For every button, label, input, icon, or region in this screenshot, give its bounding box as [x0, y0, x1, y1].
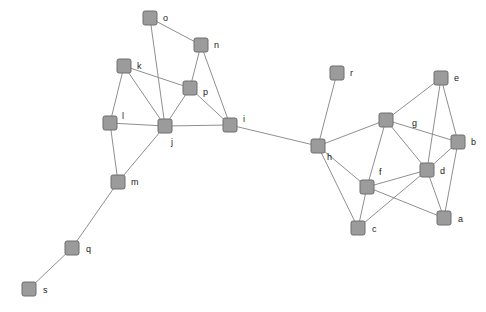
node-label-k: k — [137, 61, 142, 71]
graph-node-c[interactable]: c — [351, 221, 377, 235]
node-shape-g[interactable] — [379, 113, 393, 127]
node-layer: onkrepgljibhdmfacqs — [22, 11, 476, 296]
graph-edge-g-d — [386, 120, 427, 170]
graph-node-s[interactable]: s — [22, 282, 48, 296]
graph-node-p[interactable]: p — [183, 81, 208, 97]
graph-edge-h-r — [318, 73, 337, 146]
node-label-f: f — [379, 167, 382, 177]
graph-edge-m-q — [72, 182, 118, 248]
edge-layer — [29, 18, 458, 289]
graph-node-d[interactable]: d — [420, 163, 445, 177]
node-shape-s[interactable] — [22, 282, 36, 296]
node-label-o: o — [163, 13, 168, 23]
node-label-h: h — [327, 152, 332, 162]
graph-node-n[interactable]: n — [194, 38, 219, 52]
graph-node-k[interactable]: k — [117, 59, 142, 73]
graph-edge-h-c — [318, 146, 358, 228]
graph-edge-l-j — [110, 123, 165, 126]
graph-edge-h-f — [318, 146, 367, 187]
node-shape-r[interactable] — [330, 66, 344, 80]
graph-edge-e-b — [441, 78, 458, 142]
node-shape-c[interactable] — [351, 221, 365, 235]
graph-canvas: onkrepgljibhdmfacqs — [0, 0, 486, 312]
graph-edge-k-j — [124, 66, 165, 126]
node-shape-k[interactable] — [117, 59, 131, 73]
graph-edge-d-f — [367, 170, 427, 187]
graph-edge-i-h — [230, 125, 318, 146]
graph-node-o[interactable]: o — [143, 11, 168, 25]
node-shape-o[interactable] — [143, 11, 157, 25]
graph-node-r[interactable]: r — [330, 66, 353, 80]
graph-edge-g-b — [386, 120, 458, 142]
node-label-c: c — [372, 224, 377, 234]
node-shape-h[interactable] — [311, 139, 325, 153]
graph-node-l[interactable]: l — [103, 111, 124, 130]
graph-edge-g-f — [367, 120, 386, 187]
graph-edge-e-d — [427, 78, 441, 170]
graph-node-j[interactable]: j — [158, 119, 173, 147]
graph-diagram: onkrepgljibhdmfacqs — [0, 0, 486, 312]
node-label-q: q — [86, 244, 91, 254]
graph-edge-n-i — [201, 45, 230, 125]
graph-node-q[interactable]: q — [65, 241, 91, 255]
node-shape-f[interactable] — [360, 180, 374, 194]
graph-edge-d-c — [358, 170, 427, 228]
node-shape-q[interactable] — [65, 241, 79, 255]
node-shape-l[interactable] — [103, 116, 117, 130]
node-label-p: p — [203, 87, 208, 97]
node-shape-a[interactable] — [437, 211, 451, 225]
graph-edge-o-n — [150, 18, 201, 45]
node-shape-m[interactable] — [111, 175, 125, 189]
graph-edge-j-m — [118, 126, 165, 182]
graph-node-i[interactable]: i — [223, 114, 245, 132]
node-shape-p[interactable] — [183, 81, 197, 95]
node-shape-n[interactable] — [194, 38, 208, 52]
graph-node-a[interactable]: a — [437, 211, 463, 225]
node-shape-j[interactable] — [158, 119, 172, 133]
node-label-j: j — [170, 137, 173, 147]
graph-node-b[interactable]: b — [451, 135, 476, 149]
node-label-i: i — [243, 114, 245, 124]
node-label-m: m — [131, 177, 139, 187]
graph-edge-o-j — [150, 18, 165, 126]
graph-edge-l-m — [110, 123, 118, 182]
graph-node-g[interactable]: g — [379, 113, 417, 128]
graph-node-e[interactable]: e — [434, 71, 459, 85]
node-shape-d[interactable] — [420, 163, 434, 177]
node-label-d: d — [440, 166, 445, 176]
node-label-a: a — [458, 214, 463, 224]
graph-edge-j-i — [165, 125, 230, 126]
node-label-g: g — [412, 118, 417, 128]
graph-edge-h-g — [318, 120, 386, 146]
graph-node-m[interactable]: m — [111, 175, 139, 189]
node-shape-e[interactable] — [434, 71, 448, 85]
node-label-l: l — [122, 111, 124, 121]
node-label-r: r — [350, 68, 353, 78]
node-label-n: n — [214, 40, 219, 50]
node-label-b: b — [471, 137, 476, 147]
node-label-e: e — [454, 73, 459, 83]
graph-node-h[interactable]: h — [311, 139, 332, 162]
node-shape-i[interactable] — [223, 118, 237, 132]
graph-edge-f-a — [367, 187, 444, 218]
graph-edge-g-e — [386, 78, 441, 120]
node-shape-b[interactable] — [451, 135, 465, 149]
node-label-s: s — [43, 285, 48, 295]
